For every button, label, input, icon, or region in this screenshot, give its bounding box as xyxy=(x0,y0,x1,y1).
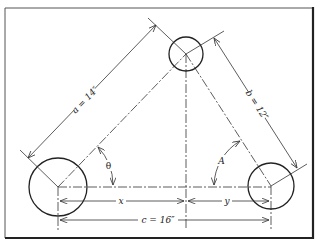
triangle-hole-diagram: a = 14″ b = 12″ x y c = 16″ θ A xyxy=(0,0,321,244)
side-b-label: b = 12″ xyxy=(244,88,271,122)
drawing-frame xyxy=(5,7,314,239)
angle-theta-label: θ xyxy=(106,161,111,171)
dim-x-label: x xyxy=(118,196,123,206)
angle-A-label: A xyxy=(217,156,225,166)
side-a-centerline xyxy=(58,54,186,187)
dim-y-label: y xyxy=(223,196,230,206)
side-b-extensions xyxy=(186,31,307,186)
side-a-label: a = 14″ xyxy=(70,84,101,115)
side-c-label: c = 16″ xyxy=(141,215,175,225)
